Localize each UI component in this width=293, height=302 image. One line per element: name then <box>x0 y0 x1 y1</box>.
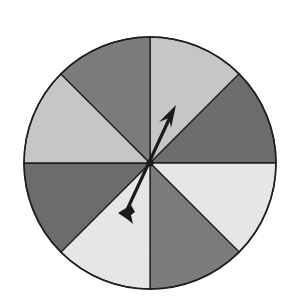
spinner-pivot <box>147 160 154 167</box>
spinner-diagram <box>0 0 293 302</box>
